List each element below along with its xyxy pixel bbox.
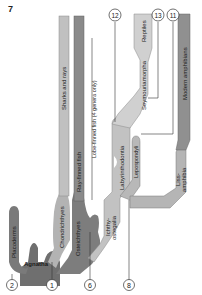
label-placoderms: Placoderms: [11, 226, 17, 258]
callout-8: 8: [124, 280, 135, 291]
callout-12: 12: [109, 9, 121, 21]
svg-text:12: 12: [111, 12, 119, 19]
label-ichthyostegalia-2: ostegalia: [111, 215, 117, 240]
svg-text:13: 13: [154, 12, 162, 19]
svg-text:11: 11: [170, 12, 177, 19]
svg-text:2: 2: [10, 282, 14, 289]
callout-1: 1: [47, 280, 58, 291]
svg-text:6: 6: [88, 282, 92, 289]
label-osteichthyes: Osteichthyes: [75, 221, 81, 256]
label-lobe-finned-fish: Lobe-finned fish (4 genera only): [91, 80, 97, 158]
label-sharks-and-rays: Sharks and rays: [61, 67, 67, 110]
phylogeny-figure: 7: [0, 0, 202, 295]
label-agnatha: Agnatha: [24, 261, 49, 267]
callout-13: 13: [152, 9, 164, 21]
callout-2: 2: [7, 280, 18, 291]
label-lissamphibia-2: amphibia: [181, 167, 187, 192]
label-seymouriamorpha: Seymouriamorpha: [141, 60, 147, 110]
svg-text:1: 1: [50, 282, 54, 289]
figure-number: 7: [8, 4, 13, 14]
label-ray-finned-fish: Ray-finned fish: [76, 152, 82, 192]
svg-text:8: 8: [127, 282, 131, 289]
label-labyrinthodontia: Labyrinthodontia: [119, 145, 125, 190]
label-reptiles: Reptiles: [141, 20, 147, 42]
callout-6: 6: [85, 280, 96, 291]
label-lepospondyli: Lepospondyli: [133, 146, 139, 178]
label-modern-amphibians: Modern amphibians: [182, 47, 188, 100]
label-chondrichthyes: Chondrichthyes: [59, 206, 65, 248]
phylogeny-tree: 2 1 6 8 12 13 11 Placoderms Agnath: [0, 0, 202, 295]
callout-11: 11: [167, 9, 179, 21]
